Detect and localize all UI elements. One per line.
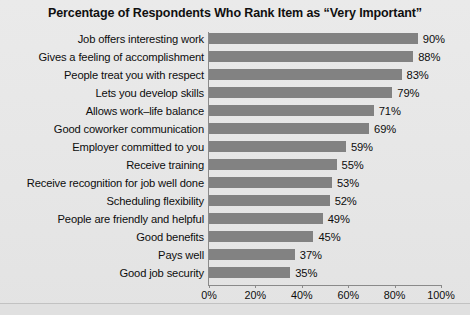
bar-value-label: 88% [418,48,440,66]
bar [209,51,413,62]
plot-area: Job offers interesting work90%Gives a fe… [0,30,470,286]
bar-value-label: 71% [379,102,401,120]
bar [209,195,330,206]
bar-track: 49% [209,210,441,228]
category-label: Good coworker communication [0,120,204,138]
bar-value-label: 83% [407,66,429,84]
bar-track: 90% [209,30,441,48]
x-axis-tick-label: 20% [235,289,275,301]
x-axis-tick-label: 80% [375,289,415,301]
bar-value-label: 55% [342,156,364,174]
y-axis-line [208,32,209,285]
category-label: Employer committed to you [0,138,204,156]
chart-row: People treat you with respect83% [0,66,470,84]
bar-track: 59% [209,138,441,156]
bar-track: 55% [209,156,441,174]
category-label: Gives a feeling of accomplishment [0,48,204,66]
bar [209,213,323,224]
chart-title: Percentage of Respondents Who Rank Item … [0,6,470,20]
bar-track: 88% [209,48,441,66]
chart-row: Allows work–life balance71% [0,102,470,120]
bar-value-label: 49% [328,210,350,228]
bar [209,177,332,188]
bar [209,159,337,170]
x-axis-tick-mark [255,285,256,288]
category-label: Job offers interesting work [0,30,204,48]
x-axis-line [208,285,442,286]
bar [209,33,418,44]
bar [209,231,313,242]
chart-row: People are friendly and helpful49% [0,210,470,228]
bar-track: 83% [209,66,441,84]
bar-value-label: 59% [351,138,373,156]
category-label: Good job security [0,264,204,282]
category-label: People are friendly and helpful [0,210,204,228]
category-label: Scheduling flexibility [0,192,204,210]
bar-track: 37% [209,246,441,264]
x-axis-tick-label: 40% [282,289,322,301]
bar [209,105,374,116]
chart-row: Gives a feeling of accomplishment88% [0,48,470,66]
chart-row: Employer committed to you59% [0,138,470,156]
category-label: Receive training [0,156,204,174]
chart-row: Good benefits45% [0,228,470,246]
x-axis-tick-mark [209,285,210,288]
bar-track: 53% [209,174,441,192]
chart-row: Receive recognition for job well done53% [0,174,470,192]
chart-row: Lets you develop skills79% [0,84,470,102]
category-label: Allows work–life balance [0,102,204,120]
category-label: Good benefits [0,228,204,246]
bar-track: 35% [209,264,441,282]
bar-track: 69% [209,120,441,138]
bar-value-label: 90% [423,30,445,48]
bar-value-label: 45% [318,228,340,246]
bar [209,267,290,278]
bar-track: 79% [209,84,441,102]
x-axis-tick-mark [441,285,442,288]
bar [209,87,392,98]
chart-row: Receive training55% [0,156,470,174]
bar-value-label: 52% [335,192,357,210]
bar-chart: Percentage of Respondents Who Rank Item … [0,0,470,315]
bar-value-label: 35% [295,264,317,282]
category-label: Pays well [0,246,204,264]
chart-row: Pays well37% [0,246,470,264]
bar-value-label: 79% [397,84,419,102]
category-label: People treat you with respect [0,66,204,84]
chart-row: Job offers interesting work90% [0,30,470,48]
x-axis-tick-label: 60% [328,289,368,301]
bar-value-label: 69% [374,120,396,138]
x-axis-tick-label: 0% [189,289,229,301]
x-axis-tick-mark [348,285,349,288]
chart-row: Good coworker communication69% [0,120,470,138]
bar [209,69,402,80]
chart-row: Scheduling flexibility52% [0,192,470,210]
bar-value-label: 53% [337,174,359,192]
bar-track: 52% [209,192,441,210]
chart-row: Good job security35% [0,264,470,282]
x-axis-tick-label: 100% [421,289,461,301]
x-axis-tick-mark [395,285,396,288]
x-axis-tick-mark [302,285,303,288]
bottom-band [0,304,470,315]
category-label: Lets you develop skills [0,84,204,102]
bar [209,249,295,260]
bar-track: 71% [209,102,441,120]
bar [209,141,346,152]
bar [209,123,369,134]
bar-value-label: 37% [300,246,322,264]
bar-track: 45% [209,228,441,246]
category-label: Receive recognition for job well done [0,174,204,192]
